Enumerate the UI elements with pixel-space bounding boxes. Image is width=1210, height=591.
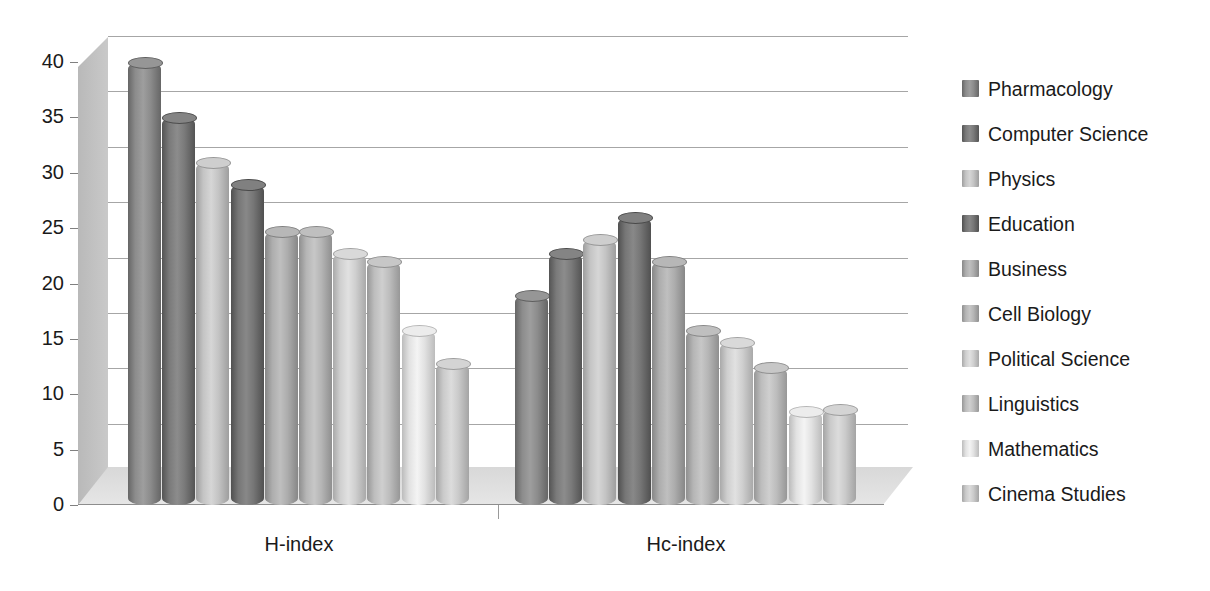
- legend-item[interactable]: Pharmacology: [962, 66, 1210, 111]
- legend-item[interactable]: Cinema Studies: [962, 471, 1210, 516]
- bar-top-cap: [367, 256, 402, 268]
- legend-item-label: Education: [988, 213, 1075, 235]
- legend-item-label: Political Science: [988, 348, 1130, 370]
- bar-top-cap: [333, 248, 368, 260]
- bar-top-cap: [231, 179, 266, 191]
- legend-item-label: Cell Biology: [988, 303, 1091, 325]
- y-axis-tick: [70, 339, 78, 340]
- legend-item-label: Physics: [988, 168, 1055, 190]
- legend-item-label: Pharmacology: [988, 78, 1113, 100]
- bar[interactable]: [162, 117, 195, 505]
- bar[interactable]: [754, 367, 787, 505]
- y-axis-tick: [70, 228, 78, 229]
- bar[interactable]: [436, 363, 469, 505]
- legend-item-label: Cinema Studies: [988, 483, 1126, 505]
- bar[interactable]: [128, 62, 161, 505]
- legend-item[interactable]: Computer Science: [962, 111, 1210, 156]
- y-axis-tick-label: 30: [24, 162, 64, 182]
- bar[interactable]: [823, 409, 856, 505]
- chart-side-wall: [78, 37, 108, 505]
- y-axis-tick: [70, 284, 78, 285]
- y-axis-tick: [70, 173, 78, 174]
- bar[interactable]: [402, 330, 435, 505]
- legend-swatch-icon: [962, 260, 979, 277]
- bar-top-cap: [402, 325, 437, 337]
- legend-item[interactable]: Cell Biology: [962, 291, 1210, 336]
- bar-top-cap: [618, 212, 653, 224]
- bar-top-cap: [265, 226, 300, 238]
- bar[interactable]: [618, 217, 651, 505]
- legend-swatch-icon: [962, 440, 979, 457]
- y-axis-tick: [70, 505, 78, 506]
- y-axis-labels: 4035302520151050: [20, 0, 64, 591]
- y-axis-tick: [70, 62, 78, 63]
- plot-area: [0, 0, 960, 591]
- y-axis-tick-label: 10: [24, 383, 64, 403]
- bar-top-cap: [823, 404, 858, 416]
- bar-top-cap: [583, 234, 618, 246]
- legend-swatch-icon: [962, 350, 979, 367]
- y-axis-tick-label: 40: [24, 51, 64, 71]
- gridline: [108, 36, 908, 37]
- legend-item[interactable]: Linguistics: [962, 381, 1210, 426]
- gridline: [108, 147, 908, 148]
- bar[interactable]: [583, 239, 616, 505]
- bar-top-cap: [754, 362, 789, 374]
- bar-chart: 4035302520151050 H-index Hc-index Pharma…: [0, 0, 1210, 591]
- y-axis-tick: [70, 394, 78, 395]
- legend-item[interactable]: Physics: [962, 156, 1210, 201]
- y-axis-tick-label: 0: [24, 494, 64, 514]
- bar[interactable]: [231, 184, 264, 505]
- y-axis-tick: [70, 450, 78, 451]
- legend-item[interactable]: Business: [962, 246, 1210, 291]
- bar-top-cap: [789, 406, 824, 418]
- bar-top-cap: [686, 325, 721, 337]
- bar-top-cap: [652, 256, 687, 268]
- y-axis-tick-label: 25: [24, 217, 64, 237]
- bar[interactable]: [789, 411, 822, 505]
- y-axis-tick-label: 15: [24, 328, 64, 348]
- legend-swatch-icon: [962, 215, 979, 232]
- legend-item-label: Linguistics: [988, 393, 1079, 415]
- y-axis-tick-label: 35: [24, 106, 64, 126]
- legend-swatch-icon: [962, 125, 979, 142]
- legend-swatch-icon: [962, 170, 979, 187]
- legend-item[interactable]: Mathematics: [962, 426, 1210, 471]
- bar-top-cap: [515, 290, 550, 302]
- bar[interactable]: [515, 295, 548, 505]
- bar-top-cap: [128, 57, 163, 69]
- legend-item[interactable]: Political Science: [962, 336, 1210, 381]
- bar[interactable]: [652, 261, 685, 505]
- legend-item-label: Mathematics: [988, 438, 1099, 460]
- bar[interactable]: [265, 231, 298, 505]
- bar[interactable]: [549, 253, 582, 506]
- legend-swatch-icon: [962, 80, 979, 97]
- x-axis-label-hc-index: Hc-index: [586, 533, 786, 555]
- legend-item[interactable]: Education: [962, 201, 1210, 246]
- bar[interactable]: [299, 231, 332, 505]
- bar[interactable]: [333, 253, 366, 506]
- legend-item-label: Business: [988, 258, 1067, 280]
- chart-legend: PharmacologyComputer SciencePhysicsEduca…: [962, 66, 1210, 516]
- y-axis-tick: [70, 117, 78, 118]
- bar[interactable]: [196, 162, 229, 505]
- legend-item-label: Computer Science: [988, 123, 1148, 145]
- bar-top-cap: [720, 337, 755, 349]
- bar-top-cap: [196, 157, 231, 169]
- group-separator-tick: [498, 505, 499, 519]
- bar-top-cap: [549, 248, 584, 260]
- bar[interactable]: [367, 261, 400, 505]
- legend-swatch-icon: [962, 305, 979, 322]
- bar[interactable]: [720, 342, 753, 505]
- bar-top-cap: [162, 112, 197, 124]
- bar-top-cap: [299, 226, 334, 238]
- bar[interactable]: [686, 330, 719, 505]
- y-axis-tick-label: 20: [24, 273, 64, 293]
- gridline: [108, 91, 908, 92]
- bar-top-cap: [436, 358, 471, 370]
- legend-swatch-icon: [962, 485, 979, 502]
- x-axis-label-h-index: H-index: [199, 533, 399, 555]
- y-axis-tick-label: 5: [24, 439, 64, 459]
- legend-swatch-icon: [962, 395, 979, 412]
